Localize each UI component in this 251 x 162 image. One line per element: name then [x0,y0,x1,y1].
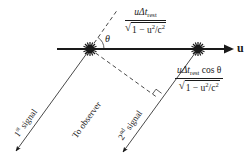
velocity-arrow-icon [224,45,234,54]
angle-theta-label: θ [105,33,110,44]
theta-arc [98,38,104,50]
denominator: √ 1 − u2/c2 [125,21,166,36]
denominator-sup2: 2 [215,81,218,88]
diagram-canvas: u θ uΔtrest √ 1 − u2/c2 uΔtrest cos θ √ … [0,0,251,162]
distance-expression-top: uΔtrest √ 1 − u2/c2 [125,8,166,35]
numerator-text: uΔt [177,65,190,75]
denominator-sup2: 2 [162,23,165,30]
numerator-subscript: rest [147,11,156,18]
velocity-label: u [237,41,244,56]
dashed-direction-line [90,9,118,49]
numerator-suffix: cos θ [199,65,221,75]
numerator-subscript: rest [190,69,199,76]
denominator: √ 1 − u2/c2 [179,79,220,94]
denominator-text: 1 − u [132,25,152,35]
event-1-starburst-icon [83,42,97,56]
event-2-starburst-icon [191,42,205,56]
distance-expression-side: uΔtrest cos θ √ 1 − u2/c2 [175,66,223,93]
right-angle-marker [153,89,162,94]
denominator-text: 1 − u [186,83,206,93]
numerator-text: uΔt [134,7,147,17]
denominator-mid: /c [155,25,162,35]
dashed-projection-line [90,49,158,98]
